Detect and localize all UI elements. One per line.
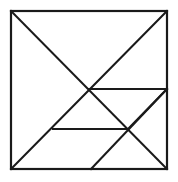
- tangram-diagram: [0, 0, 178, 182]
- tangram-figure-root: [0, 0, 178, 182]
